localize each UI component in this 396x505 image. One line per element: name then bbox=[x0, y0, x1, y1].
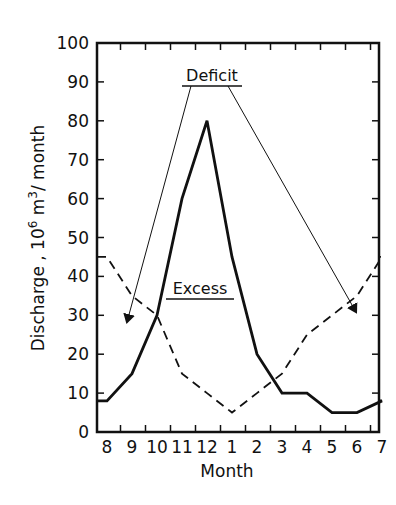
y-tick-label: 80 bbox=[67, 111, 89, 131]
deficit-arrow-right bbox=[228, 86, 356, 312]
y-tick-label: 30 bbox=[67, 305, 89, 325]
y-tick-label: 90 bbox=[67, 72, 89, 92]
x-tick-label: 6 bbox=[352, 437, 363, 457]
x-tick-label: 12 bbox=[196, 437, 218, 457]
x-tick-label: 1 bbox=[227, 437, 238, 457]
x-axis-title: Month bbox=[200, 461, 253, 481]
x-tick-label: 3 bbox=[277, 437, 288, 457]
x-tick-label: 4 bbox=[302, 437, 313, 457]
y-tick-label: 100 bbox=[57, 33, 89, 53]
x-tick-label: 8 bbox=[102, 437, 113, 457]
x-tick-label: 9 bbox=[127, 437, 138, 457]
y-tick-label: 10 bbox=[67, 383, 89, 403]
y-tick-label: 50 bbox=[67, 228, 89, 248]
y-tick-label: 60 bbox=[67, 189, 89, 209]
x-tick-label: 7 bbox=[377, 437, 388, 457]
y-tick-label: 20 bbox=[67, 344, 89, 364]
x-tick-label: 11 bbox=[171, 437, 193, 457]
x-tick-label: 2 bbox=[252, 437, 263, 457]
y-axis-ticks: 0102030405060708090100 bbox=[57, 33, 379, 442]
x-axis-ticks: 891011121234567 bbox=[102, 43, 388, 457]
deficit-label: Deficit bbox=[186, 66, 238, 85]
solid-series-line bbox=[97, 121, 382, 413]
dashed-series-line bbox=[97, 257, 382, 413]
x-tick-label: 5 bbox=[327, 437, 338, 457]
x-tick-label: 10 bbox=[146, 437, 168, 457]
y-tick-label: 40 bbox=[67, 266, 89, 286]
excess-label: Excess bbox=[173, 279, 228, 298]
y-tick-label: 0 bbox=[78, 422, 89, 442]
y-tick-label: 70 bbox=[67, 150, 89, 170]
plot-frame bbox=[97, 43, 379, 432]
y-axis-title: Discharge , 106 m3/ month bbox=[26, 125, 48, 352]
discharge-chart: 0102030405060708090100 891011121234567 D… bbox=[0, 0, 396, 505]
